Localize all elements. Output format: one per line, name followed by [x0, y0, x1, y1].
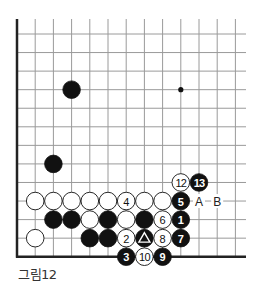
black-stone-icon	[99, 211, 117, 229]
move-number-label: 8	[160, 233, 166, 245]
move-number-label: 13	[194, 177, 205, 189]
figure-caption: 그림12	[18, 264, 57, 283]
black-stone	[136, 211, 154, 229]
white-stone	[99, 192, 117, 210]
white-stone	[26, 192, 44, 210]
white-stone-icon	[136, 192, 154, 210]
move-number-label: 10	[139, 251, 150, 263]
white-stone	[136, 192, 154, 210]
black-stone	[45, 211, 63, 229]
white-stone: 2	[117, 229, 135, 247]
black-stone	[45, 155, 63, 173]
white-stone	[81, 211, 99, 229]
white-stone	[154, 192, 172, 210]
black-stone	[63, 81, 81, 99]
black-stone	[63, 211, 81, 229]
black-stone	[136, 229, 154, 247]
star-points	[178, 87, 183, 92]
white-stone: 12	[172, 174, 190, 192]
move-number-label: 6	[160, 214, 166, 226]
white-stone: 4	[117, 192, 135, 210]
white-stone-icon	[117, 211, 135, 229]
black-stone	[81, 229, 99, 247]
move-number-label: 9	[160, 251, 166, 263]
white-stone	[63, 192, 81, 210]
star-point-icon	[178, 87, 183, 92]
black-stone	[99, 211, 117, 229]
point-marker-a: A	[195, 195, 203, 209]
black-stone-icon	[63, 81, 81, 99]
black-stone: 13	[190, 174, 208, 192]
black-stone-icon	[45, 155, 63, 173]
move-number-label: 1	[178, 214, 184, 226]
white-stone-icon	[81, 192, 99, 210]
white-stone	[81, 192, 99, 210]
white-stone	[117, 211, 135, 229]
black-stone: 9	[154, 248, 172, 266]
black-stone-icon	[45, 211, 63, 229]
move-number-label: 7	[178, 233, 184, 245]
black-stone-icon	[81, 229, 99, 247]
white-stone-icon	[45, 192, 63, 210]
black-stone-icon	[136, 211, 154, 229]
black-stone-icon	[99, 229, 117, 247]
move-number-label: 3	[123, 251, 129, 263]
white-stone-icon	[26, 192, 44, 210]
move-number-label: 5	[178, 196, 184, 208]
black-stone: 5	[172, 192, 190, 210]
white-stone-icon	[154, 192, 172, 210]
black-stone-icon	[63, 211, 81, 229]
move-number-label: 2	[123, 233, 129, 245]
move-number-label: 12	[175, 177, 186, 189]
white-stone-icon	[81, 211, 99, 229]
white-stone: 10	[136, 248, 154, 266]
white-stone: 6	[154, 211, 172, 229]
white-stone-icon	[99, 192, 117, 210]
black-stone	[99, 229, 117, 247]
white-stone-icon	[63, 192, 81, 210]
go-board: 121345612873109 AB	[0, 0, 261, 290]
white-stone-icon	[26, 229, 44, 247]
black-stone: 1	[172, 211, 190, 229]
white-stone	[26, 229, 44, 247]
black-stone: 3	[117, 248, 135, 266]
white-stone: 8	[154, 229, 172, 247]
move-number-label: 4	[123, 196, 129, 208]
point-marker-b: B	[213, 195, 221, 209]
white-stone	[45, 192, 63, 210]
black-stone: 7	[172, 229, 190, 247]
